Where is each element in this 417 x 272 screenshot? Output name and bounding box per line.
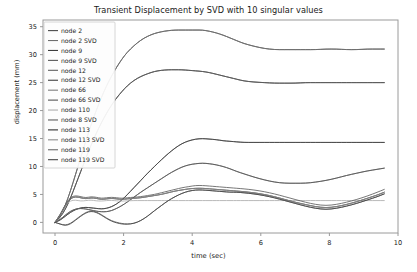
y-tick-label-20: 20	[29, 107, 37, 115]
x-tick-label-2: 2	[122, 239, 126, 247]
series-line	[55, 200, 384, 222]
legend-label: node 9 SVD	[61, 57, 97, 64]
legend-label: node 12	[61, 67, 86, 74]
series-line	[55, 163, 384, 222]
y-tick-label-10: 10	[29, 163, 37, 171]
series-line	[55, 190, 384, 225]
legend-label: node 8 SVD	[61, 116, 97, 123]
y-tick-label-15: 15	[29, 135, 37, 143]
legend-label: node 119 SVD	[61, 156, 105, 163]
y-tick-label-25: 25	[29, 79, 37, 87]
x-tick-label-6: 6	[259, 239, 263, 247]
x-tick-label-10: 10	[394, 239, 402, 247]
legend-label: node 66 SVD	[61, 96, 101, 103]
legend-label: node 113 SVD	[61, 136, 105, 143]
series-line	[55, 163, 384, 222]
chart-figure: Transient Displacement by SVD with 10 si…	[0, 0, 417, 272]
x-tick-label-0: 0	[53, 239, 57, 247]
legend-label: node 66	[61, 86, 86, 93]
legend-label: node 119	[61, 146, 90, 153]
y-tick-label-0: 0	[33, 219, 37, 227]
legend-label: node 2 SVD	[61, 37, 97, 44]
legend-label: node 2	[61, 27, 82, 34]
legend-label: node 113	[61, 126, 90, 133]
series-line	[55, 190, 384, 225]
legend-label: node 12 SVD	[61, 76, 101, 83]
x-tick-label-4: 4	[190, 239, 194, 247]
y-tick-label-30: 30	[29, 51, 37, 59]
y-tick-label-35: 35	[29, 23, 37, 31]
plot-canvas: 024681005101520253035node 2node 2 SVDnod…	[0, 0, 417, 272]
legend-label: node 110	[61, 106, 90, 113]
y-tick-label-5: 5	[33, 191, 37, 199]
x-tick-label-8: 8	[327, 239, 331, 247]
legend-label: node 9	[61, 47, 82, 54]
